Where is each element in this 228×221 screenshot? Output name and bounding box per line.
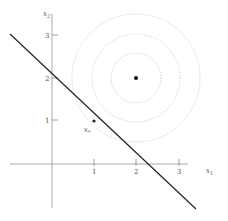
constraint-line [10,34,196,209]
x-tick-label-2: 2 [134,168,138,176]
x-axis-label: x1 [206,167,213,176]
y-axis-label: x2 [43,10,50,19]
center-point [134,76,138,80]
axes: 1 2 3 1 2 3 x1 x2 [10,10,213,208]
optimal-point [92,119,95,122]
optimal-point-label: x* [84,126,91,135]
diagram-canvas: 1 2 3 1 2 3 x1 x2 x* [0,0,228,221]
x-tick-label-3: 3 [177,168,181,176]
x-tick-label-1: 1 [92,168,96,176]
y-tick-label-2: 2 [45,75,49,83]
y-tick-label-1: 1 [45,117,49,125]
y-tick-label-3: 3 [45,32,49,40]
